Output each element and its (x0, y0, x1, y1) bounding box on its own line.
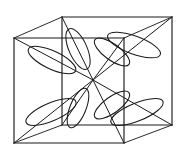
orbital-cube-canvas (0, 0, 183, 156)
connector-bottom-left (14, 125, 62, 143)
orbital-cube-figure (0, 0, 183, 156)
connector-top-left (14, 17, 62, 38)
connector-bottom-right (124, 125, 172, 143)
